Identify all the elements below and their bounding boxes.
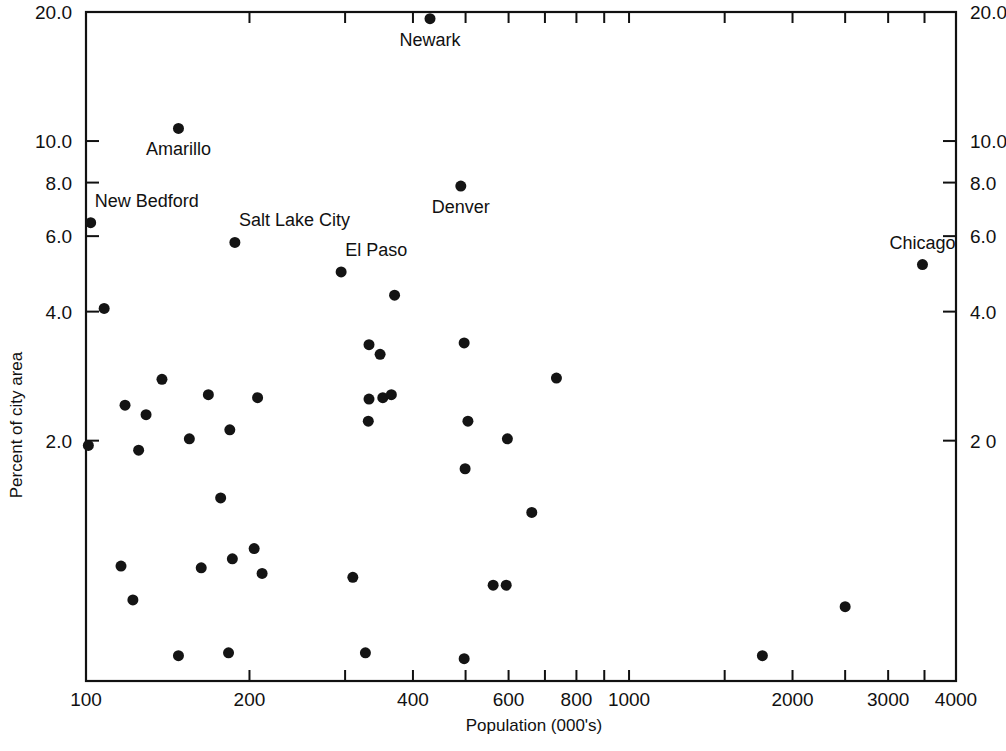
data-point: [459, 337, 470, 348]
data-point: [83, 440, 94, 451]
data-point: [757, 650, 768, 661]
y-tick-label-left: 2.0: [46, 431, 72, 452]
data-point: [99, 303, 110, 314]
data-point: [501, 580, 512, 591]
scatter-chart-figure: 1002004006008001000200030004000 20.010.0…: [0, 0, 1006, 751]
data-point: [116, 561, 127, 572]
x-tick-label: 1000: [608, 689, 650, 710]
data-point: [462, 416, 473, 427]
data-point: [141, 409, 152, 420]
data-point: [249, 543, 260, 554]
data-point: [156, 374, 167, 385]
data-point: [455, 181, 466, 192]
data-point: [389, 290, 400, 301]
data-point: [120, 400, 131, 411]
point-label-chicago: Chicago: [889, 233, 955, 253]
plot-svg: 1002004006008001000200030004000 20.010.0…: [0, 0, 1006, 751]
data-point: [425, 13, 436, 24]
y-tick-label-left: 8.0: [46, 173, 72, 194]
data-point: [364, 394, 375, 405]
data-point: [229, 237, 240, 248]
y-tick-label-right: 8.0: [970, 173, 996, 194]
data-point: [336, 266, 347, 277]
y-tick-label-right: 2 0: [970, 431, 996, 452]
data-point: [133, 445, 144, 456]
data-point: [127, 594, 138, 605]
y-tick-label-right: 20.0: [970, 2, 1006, 23]
x-tick-label: 800: [561, 689, 593, 710]
x-tick-label: 3000: [867, 689, 909, 710]
data-point: [459, 653, 470, 664]
chart-background: [0, 0, 1006, 751]
y-tick-label-left: 20.0: [35, 2, 72, 23]
data-point: [196, 562, 207, 573]
x-tick-label: 600: [493, 689, 525, 710]
x-tick-label: 2000: [771, 689, 813, 710]
point-label-new-bedford: New Bedford: [95, 191, 199, 211]
x-tick-label: 4000: [935, 689, 977, 710]
x-axis-title: Population (000's): [466, 716, 603, 735]
y-axis-title: Percent of city area: [7, 351, 26, 498]
y-tick-label-left: 10.0: [35, 131, 72, 152]
x-tick-label: 400: [397, 689, 429, 710]
data-point: [360, 647, 371, 658]
data-point: [363, 416, 374, 427]
data-point: [840, 601, 851, 612]
data-point: [224, 424, 235, 435]
data-point: [173, 650, 184, 661]
data-point: [364, 339, 375, 350]
data-point: [347, 572, 358, 583]
point-label-salt-lake-city: Salt Lake City: [239, 210, 350, 230]
data-point: [257, 568, 268, 579]
y-tick-label-left: 6.0: [46, 226, 72, 247]
y-tick-label-left: 4.0: [46, 302, 72, 323]
data-point: [551, 373, 562, 384]
data-point: [173, 123, 184, 134]
data-point: [460, 463, 471, 474]
y-tick-label-right: 10.0: [970, 131, 1006, 152]
data-point: [184, 433, 195, 444]
point-label-amarillo: Amarillo: [146, 139, 211, 159]
y-tick-label-right: 4.0: [970, 302, 996, 323]
x-tick-label: 200: [234, 689, 266, 710]
data-point: [252, 392, 263, 403]
x-tick-label: 100: [70, 689, 102, 710]
data-point: [526, 507, 537, 518]
data-point: [227, 553, 238, 564]
point-label-newark: Newark: [399, 30, 461, 50]
data-point: [917, 259, 928, 270]
data-point: [375, 349, 386, 360]
data-point: [502, 433, 513, 444]
y-tick-label-right: 6.0: [970, 226, 996, 247]
point-label-el-paso: El Paso: [345, 240, 407, 260]
data-point: [386, 389, 397, 400]
data-point: [223, 647, 234, 658]
data-point: [85, 217, 96, 228]
data-point: [215, 492, 226, 503]
data-point: [203, 389, 214, 400]
point-label-denver: Denver: [432, 197, 490, 217]
data-point: [488, 580, 499, 591]
